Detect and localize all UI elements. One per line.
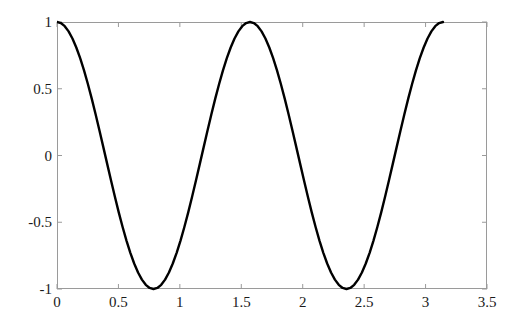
figure-canvas: 00.511.522.533.5 -1-0.500.51 xyxy=(0,0,518,327)
y-tick-label-0: -1 xyxy=(40,282,53,297)
x-tick-label-1: 0.5 xyxy=(109,295,128,310)
plot-area xyxy=(0,0,518,327)
y-tick-label-4: 1 xyxy=(45,15,53,30)
series-line-0 xyxy=(57,22,443,289)
y-tick-label-2: 0 xyxy=(45,148,53,163)
chart-page: 00.511.522.533.5 -1-0.500.51 xyxy=(0,0,518,327)
x-tick-label-7: 3.5 xyxy=(478,295,497,310)
x-tick-label-0: 0 xyxy=(53,295,61,310)
y-tick-label-1: -0.5 xyxy=(28,215,52,230)
axis-frame xyxy=(58,23,487,289)
y-tick-label-3: 0.5 xyxy=(33,81,52,96)
x-tick-label-4: 2 xyxy=(299,295,307,310)
x-tick-label-3: 1.5 xyxy=(232,295,251,310)
x-tick-label-6: 3 xyxy=(422,295,430,310)
x-tick-label-2: 1 xyxy=(176,295,184,310)
x-tick-label-5: 2.5 xyxy=(355,295,374,310)
